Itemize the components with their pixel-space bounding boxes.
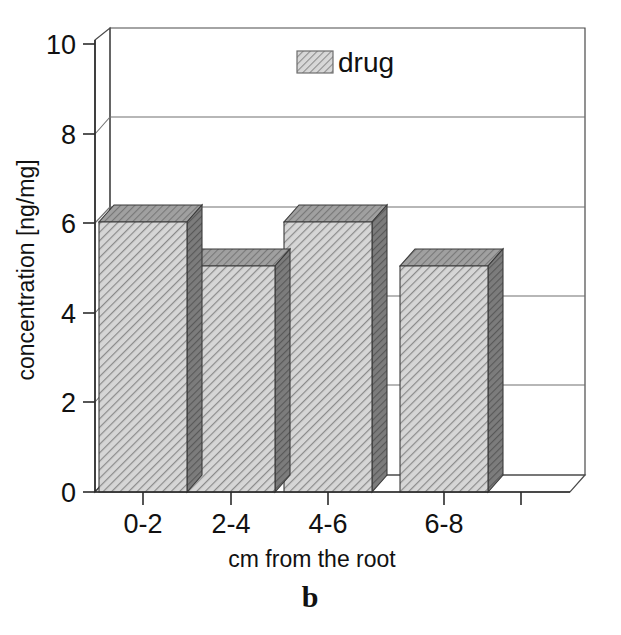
y-tick-label-6: 6 (61, 209, 76, 239)
x-tick-label-0-2: 0-2 (123, 509, 162, 539)
bar-top-face (284, 205, 387, 222)
bar-chart-3d: 0 2 4 6 8 10 concentration [ng/mg] 0-2 2… (0, 0, 621, 635)
y-axis-title: concentration [ng/mg] (13, 159, 39, 380)
bar-side-face (187, 205, 202, 492)
bar-front-face (400, 266, 488, 492)
y-tick-label-10: 10 (46, 30, 76, 60)
y-tick-label-2: 2 (61, 388, 76, 418)
bar-6-8 (400, 249, 503, 492)
bar-side-face (488, 249, 503, 492)
x-tick-label-6-8: 6-8 (424, 509, 463, 539)
y-tick-label-4: 4 (61, 299, 76, 329)
figure-panel-b: 0 2 4 6 8 10 concentration [ng/mg] 0-2 2… (0, 0, 621, 635)
bar-front-face (99, 222, 187, 492)
x-tick-label-2-4: 2-4 (211, 509, 250, 539)
x-axis-title: cm from the root (228, 546, 396, 572)
legend: drug (297, 47, 394, 78)
panel-caption: b (302, 580, 319, 613)
bar-0-2 (99, 205, 202, 492)
bar-side-face (275, 249, 290, 492)
bar-side-face (372, 205, 387, 492)
legend-label-drug: drug (338, 47, 394, 78)
bar-top-face (99, 205, 202, 222)
y-tick-label-0: 0 (61, 478, 76, 508)
bar-front-face (284, 222, 372, 492)
legend-swatch-drug (297, 51, 333, 73)
x-tick-label-4-6: 4-6 (308, 509, 347, 539)
bar-4-6 (284, 205, 387, 492)
bar-top-face (400, 249, 503, 266)
y-tick-label-8: 8 (61, 120, 76, 150)
